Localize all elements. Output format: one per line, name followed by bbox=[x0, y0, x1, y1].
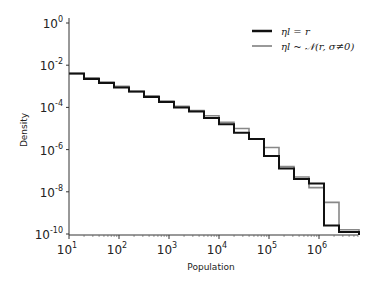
x-ticks: 101102103104105106 bbox=[57, 235, 358, 257]
x-tick-label: 103 bbox=[157, 241, 177, 257]
x-tick-label: 104 bbox=[207, 241, 227, 257]
y-tick-label: 100 bbox=[43, 15, 63, 31]
legend: ηl = r ηl ~ 𝒩(r, σ≠0) bbox=[252, 26, 354, 52]
legend-label-1: ηl = r bbox=[281, 26, 311, 37]
y-tick-label: 10-2 bbox=[40, 57, 63, 73]
series-line-1 bbox=[69, 74, 359, 235]
y-tick-label: 10-8 bbox=[40, 184, 63, 200]
x-axis-label: Population bbox=[187, 262, 234, 272]
chart: 10010-210-410-610-810-10 101102103104105… bbox=[0, 0, 377, 283]
y-tick-label: 10-4 bbox=[40, 99, 63, 115]
legend-label-2: ηl ~ 𝒩(r, σ≠0) bbox=[281, 41, 354, 52]
y-tick-label: 10-6 bbox=[40, 142, 63, 158]
y-ticks: 10010-210-410-610-810-10 bbox=[35, 15, 69, 242]
x-tick-label: 105 bbox=[257, 241, 277, 257]
series-line-2 bbox=[69, 74, 359, 235]
y-tick-label: 10-10 bbox=[35, 226, 63, 242]
plot-area bbox=[69, 74, 359, 235]
y-axis-label: Density bbox=[19, 112, 29, 147]
x-tick-label: 106 bbox=[307, 241, 327, 257]
x-tick-label: 102 bbox=[107, 241, 127, 257]
x-tick-label: 101 bbox=[57, 241, 77, 257]
